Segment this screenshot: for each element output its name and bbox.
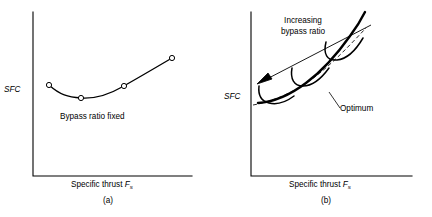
constant-bypass-curve-3 [325, 38, 363, 60]
panel-b-constant-bypass-curves [259, 38, 363, 104]
panel-b: SFC Increasing bypass ratio Optimum Spec… [216, 0, 432, 217]
panel-a-x-axis-label: Specific thrust Fs [71, 180, 133, 190]
constant-bypass-curve-2 [291, 68, 329, 86]
arrowhead-icon [257, 73, 272, 84]
panel-a: SFC Bypass ratio fixed Specific thrust F… [0, 0, 216, 217]
panel-a-caption: (a) [103, 196, 113, 206]
panel-b-annotation-increasing: Increasing [272, 16, 334, 26]
panel-b-y-axis-label: SFC [224, 92, 240, 102]
optimum-leader-line [329, 92, 340, 108]
data-point-marker [121, 83, 126, 88]
panel-a-axes [33, 12, 192, 176]
data-point-marker [46, 82, 51, 87]
figure-container: SFC Bypass ratio fixed Specific thrust F… [0, 0, 432, 217]
panel-a-y-axis-label: SFC [4, 85, 20, 95]
data-point-marker [78, 95, 83, 100]
panel-b-annotation-optimum: Optimum [340, 104, 373, 114]
panel-b-annotation-bypass-ratio: bypass ratio [264, 27, 342, 37]
panel-a-annotation-bypass-ratio-fixed: Bypass ratio fixed [60, 112, 125, 122]
panel-b-x-axis-label-text: Specific thrust [289, 180, 343, 189]
panel-a-data-markers [46, 55, 174, 100]
panel-a-curve [49, 58, 172, 98]
panel-a-x-axis-label-var: F [125, 180, 130, 189]
panel-b-x-axis-label-subscript: s [348, 183, 351, 190]
panel-b-x-axis-label-var: F [343, 180, 348, 189]
data-point-marker [169, 55, 174, 60]
panel-a-x-axis-label-subscript: s [130, 183, 133, 190]
panel-b-caption: (b) [321, 196, 331, 206]
panel-b-x-axis-label: Specific thrust Fs [289, 180, 351, 190]
panel-b-optimum-dashed-line [253, 28, 366, 105]
panel-a-x-axis-label-text: Specific thrust [71, 180, 125, 189]
